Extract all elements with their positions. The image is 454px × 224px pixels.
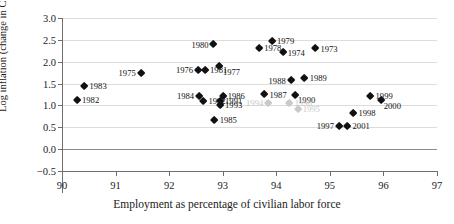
x-axis-title: Employment as percentage of civilian lab… [0, 198, 454, 210]
data-point-label: 1993 [225, 101, 242, 110]
x-tick-label: 92 [164, 180, 175, 191]
data-point-label: 1973 [320, 45, 337, 54]
y-tick-label: 1.0 [43, 100, 56, 111]
data-point-label: 1984 [177, 92, 194, 101]
diamond-marker-icon [210, 115, 219, 124]
data-point-label: 1979 [277, 37, 294, 46]
x-tick-mark [169, 171, 170, 176]
x-tick-label: 93 [217, 180, 228, 191]
diamond-marker-icon [300, 74, 309, 83]
x-axis-line [62, 171, 437, 172]
diamond-marker-icon [72, 96, 81, 105]
y-tick-label: 0.0 [43, 144, 56, 155]
diamond-marker-icon [136, 69, 145, 78]
x-tick-label: 97 [432, 180, 443, 191]
plot-area: 3.02.52.01.51.00.50.0−0.5197319741975197… [62, 18, 437, 171]
scatter-plot-figure: 3.02.52.01.51.00.50.0−0.5197319741975197… [0, 0, 454, 224]
x-tick-mark [223, 171, 224, 176]
y-tick-label: 0.5 [43, 122, 56, 133]
x-tick-label: 96 [378, 180, 389, 191]
diamond-marker-icon [366, 92, 375, 101]
data-point-label: 2001 [353, 122, 370, 131]
x-tick-label: 94 [271, 180, 282, 191]
diamond-marker-icon [209, 40, 218, 49]
diamond-marker-icon [201, 66, 210, 75]
diamond-marker-icon [255, 43, 264, 52]
data-point-label: 1985 [220, 116, 237, 125]
y-gridline [62, 127, 437, 128]
y-tick-label: −0.5 [37, 166, 56, 177]
y-axis-title: Log inflation (change in CPI) [0, 0, 8, 112]
data-point-label: 1996 [295, 99, 312, 108]
diamond-marker-icon [343, 121, 352, 130]
data-point-label: 1975 [119, 69, 136, 78]
diamond-marker-icon [334, 122, 343, 131]
data-point-label: 1974 [288, 49, 305, 58]
data-point-label: 1980 [191, 41, 208, 50]
x-tick-mark [116, 171, 117, 176]
x-tick-mark [383, 171, 384, 176]
data-point-label: 1982 [82, 96, 99, 105]
x-tick-label: 91 [110, 180, 121, 191]
x-tick-mark [62, 171, 63, 176]
y-gridline [62, 40, 437, 41]
data-point-label: 1998 [358, 109, 375, 118]
data-point-label: 1981 [210, 66, 227, 75]
y-gridline [62, 62, 437, 63]
data-point-label: 1983 [90, 82, 107, 91]
data-point-label: 2000 [384, 102, 401, 111]
x-tick-mark [276, 171, 277, 176]
x-tick-mark [437, 171, 438, 176]
y-gridline [62, 84, 437, 85]
y-axis-line [62, 18, 63, 193]
data-point-label: 1994 [246, 99, 263, 108]
y-gridline [62, 18, 437, 19]
y-tick-label: 3.0 [43, 13, 56, 24]
data-point-label: 1987 [270, 91, 287, 100]
diamond-marker-icon [349, 109, 358, 118]
x-tick-label: 95 [325, 180, 336, 191]
data-point-label: 1997 [317, 122, 334, 131]
y-gridline [62, 149, 437, 150]
x-tick-mark [330, 171, 331, 176]
y-tick-label: 2.0 [43, 56, 56, 67]
x-tick-label: 90 [57, 180, 68, 191]
data-point-label: 1976 [176, 66, 193, 75]
y-tick-label: 2.5 [43, 34, 56, 45]
data-point-label: 1988 [269, 77, 286, 86]
diamond-marker-icon [311, 44, 320, 53]
y-tick-label: 1.5 [43, 78, 56, 89]
data-point-label: 1989 [310, 74, 327, 83]
